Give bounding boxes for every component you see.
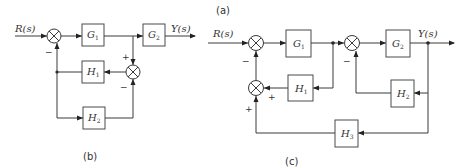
arrow-icon — [380, 41, 386, 46]
diagram-c: (a) R(s) − G1 − — [208, 5, 455, 167]
diagram-b: R(s) − G1 G2 Y(s) + — [14, 23, 196, 162]
arrow-icon — [280, 41, 286, 46]
block-diagrams: R(s) − G1 G2 Y(s) + — [0, 0, 463, 168]
arrow-icon — [190, 34, 196, 39]
arrow-icon — [358, 131, 364, 136]
arrow-icon — [242, 41, 248, 46]
arrow-icon — [313, 86, 319, 91]
sign-minus: − — [45, 47, 53, 57]
caption-a: (a) — [216, 5, 230, 16]
block-h1: H1 — [82, 61, 104, 83]
sign-plus: + — [245, 104, 253, 114]
summing-junction-2 — [345, 36, 360, 51]
summing-junction-2 — [126, 65, 140, 79]
arrow-icon — [137, 34, 143, 39]
arrow-icon — [254, 96, 259, 102]
block-h1: H1 — [288, 75, 313, 101]
sign-minus: − — [242, 56, 250, 66]
arrow-icon — [77, 116, 83, 121]
block-h3: H3 — [335, 120, 358, 147]
summing-junction-1 — [47, 29, 61, 43]
sign-minus: − — [120, 82, 128, 92]
input-label-rs: R(s) — [212, 28, 234, 39]
arrow-icon — [55, 43, 60, 49]
sign-minus: − — [343, 56, 351, 66]
caption-c: (c) — [285, 156, 298, 167]
block-g2: G2 — [386, 30, 410, 57]
arrow-icon — [41, 34, 47, 39]
block-g1: G1 — [286, 30, 311, 57]
arrow-icon — [449, 41, 455, 46]
block-g2: G2 — [143, 24, 165, 46]
caption-b: (b) — [83, 151, 97, 162]
block-h2: H2 — [391, 80, 414, 107]
input-label-rs: R(s) — [14, 23, 36, 34]
output-label-ys: Y(s) — [171, 23, 191, 34]
block-h2: H2 — [83, 107, 105, 129]
arrow-icon — [131, 79, 136, 85]
output-label-ys: Y(s) — [418, 28, 438, 39]
summing-junction-1 — [249, 36, 264, 51]
arrow-icon — [414, 91, 420, 96]
arrow-icon — [354, 51, 359, 57]
arrow-icon — [104, 70, 110, 75]
arrow-icon — [264, 86, 270, 91]
arrow-icon — [338, 41, 344, 46]
sign-plus: + — [122, 52, 130, 62]
arrow-icon — [131, 59, 136, 65]
arrow-icon — [254, 51, 259, 57]
arrow-icon — [76, 34, 82, 39]
block-g1: G1 — [82, 24, 104, 46]
sign-plus: + — [268, 92, 276, 102]
summing-junction-3 — [249, 81, 264, 96]
